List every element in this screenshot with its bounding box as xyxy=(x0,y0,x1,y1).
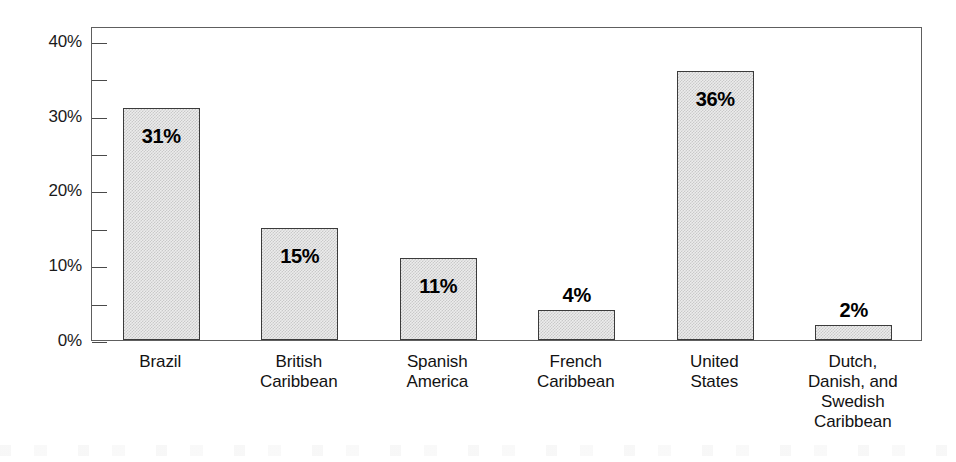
x-axis-category-label-line: States xyxy=(639,372,789,392)
x-axis-category-label: BritishCaribbean xyxy=(224,352,374,392)
bar xyxy=(538,310,615,340)
bar xyxy=(815,325,892,340)
x-axis-category-label: UnitedStates xyxy=(639,352,789,392)
bar-value-label: 36% xyxy=(655,89,775,109)
bar-chart-figure: 40%30%20%10%0% 31%15%11%4%36%2% BrazilBr… xyxy=(0,0,956,462)
bar-value-label: 15% xyxy=(240,246,360,266)
scan-artifact xyxy=(0,445,956,456)
x-axis-category-label-line: French xyxy=(501,352,651,372)
y-axis-major-tick xyxy=(92,118,107,119)
bar xyxy=(400,258,477,340)
x-axis-category-label-line: America xyxy=(362,372,512,392)
x-axis-category-label-line: Spanish xyxy=(362,352,512,372)
y-axis-tick-label: 0% xyxy=(12,332,82,349)
x-axis-category-label-line: Swedish xyxy=(778,392,928,412)
y-axis-minor-tick xyxy=(92,80,107,81)
x-axis-category-label: FrenchCaribbean xyxy=(501,352,651,392)
x-axis-category-label-line: United xyxy=(639,352,789,372)
plot-area: 31%15%11%4%36%2% xyxy=(91,27,922,341)
y-axis-minor-tick xyxy=(92,230,107,231)
x-axis-category-label: Brazil xyxy=(85,352,235,372)
y-axis-major-tick xyxy=(92,43,107,44)
x-axis-category-label-line: Caribbean xyxy=(501,372,651,392)
y-axis-tick-label: 20% xyxy=(12,182,82,199)
y-axis-minor-tick xyxy=(92,155,107,156)
x-axis-category-label-line: British xyxy=(224,352,374,372)
bar-value-label: 11% xyxy=(378,276,498,296)
x-axis-category-label-line: Danish, and xyxy=(778,372,928,392)
bar-value-label: 4% xyxy=(517,285,637,305)
x-axis-category-label-line: Caribbean xyxy=(778,412,928,432)
x-axis-category-label: Dutch,Danish, andSwedishCaribbean xyxy=(778,352,928,432)
y-axis-major-tick xyxy=(92,192,107,193)
bar-value-label: 2% xyxy=(794,300,914,320)
x-axis-category-label-line: Brazil xyxy=(85,352,235,372)
y-axis-minor-tick xyxy=(92,305,107,306)
y-axis-tick-label: 10% xyxy=(12,257,82,274)
y-axis-tick-label: 30% xyxy=(12,108,82,125)
bar xyxy=(677,71,754,340)
x-axis-category-label-line: Dutch, xyxy=(778,352,928,372)
y-axis-major-tick xyxy=(92,342,107,343)
y-axis-tick-label: 40% xyxy=(12,33,82,50)
y-axis-major-tick xyxy=(92,267,107,268)
x-axis-category-label-line: Caribbean xyxy=(224,372,374,392)
x-axis-category-label: SpanishAmerica xyxy=(362,352,512,392)
bar-value-label: 31% xyxy=(101,126,221,146)
